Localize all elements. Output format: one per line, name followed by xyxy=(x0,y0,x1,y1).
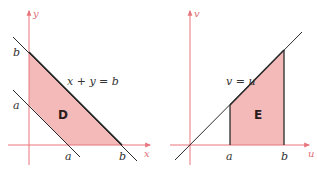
x-tick-a: a xyxy=(65,150,72,163)
v-axis-label: v xyxy=(194,8,200,19)
y-tick-b: b xyxy=(13,46,20,59)
diagram-canvas: y x b a a b x + y = b D v u a b v = u E xyxy=(0,0,317,172)
y-tick-a: a xyxy=(13,99,20,112)
u-tick-b: b xyxy=(281,150,288,163)
region-d-label: D xyxy=(58,108,68,122)
region-e-label: E xyxy=(254,108,262,122)
u-tick-a: a xyxy=(226,150,233,163)
right-plot: v u a b v = u E xyxy=(170,8,314,165)
y-axis-label: y xyxy=(32,8,39,19)
x-tick-b: b xyxy=(119,150,126,163)
left-plot: y x b a a b x + y = b D xyxy=(8,8,150,165)
equation-label: v = u xyxy=(226,75,256,88)
equation-label: x + y = b xyxy=(67,75,119,88)
x-axis-label: x xyxy=(144,148,150,159)
u-axis-label: u xyxy=(308,148,314,159)
